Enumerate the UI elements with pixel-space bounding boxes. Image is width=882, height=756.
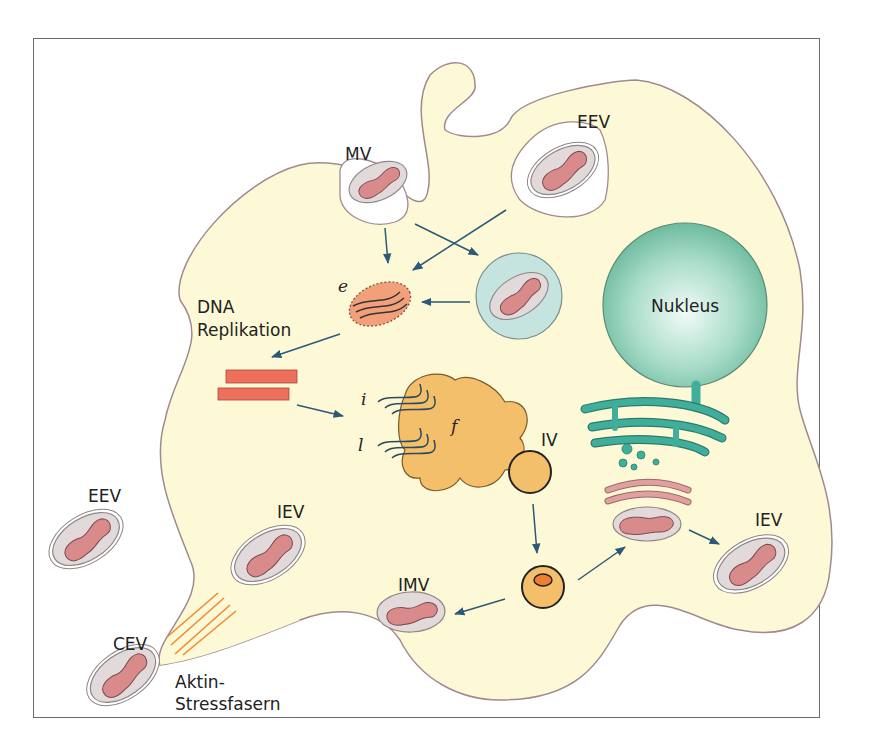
label-l: l [358, 435, 363, 455]
dna-bar-1 [226, 370, 297, 383]
label-nucleus: Nukleus [651, 296, 719, 316]
label-mv: MV [345, 144, 372, 164]
maturing-virion [522, 566, 564, 608]
maturing-virion-core [534, 574, 552, 586]
dna-bar-2 [218, 388, 289, 400]
label-iev-right: IEV [755, 510, 783, 530]
label-iv: IV [541, 430, 558, 450]
label-imv: IMV [398, 575, 430, 595]
label-eev-top: EEV [577, 112, 610, 132]
label-dna-line1: DNA [197, 297, 235, 317]
virus-replication-diagram: MV EEV Nukleus IEV [0, 0, 882, 756]
label-aktin-line2: Stressfasern [175, 694, 280, 714]
immature-virion-iv [509, 451, 551, 493]
label-iev-left: IEV [277, 502, 305, 522]
label-i: i [361, 389, 366, 409]
eev-left-virion [39, 497, 134, 581]
label-aktin-line1: Aktin- [175, 672, 225, 692]
label-eev-left: EEV [88, 486, 121, 506]
label-cev: CEV [113, 634, 148, 654]
label-dna-line2: Replikation [197, 320, 291, 340]
label-e: e [338, 276, 348, 296]
